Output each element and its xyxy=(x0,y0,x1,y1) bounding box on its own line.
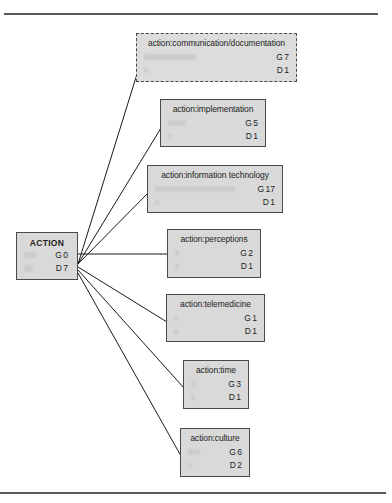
d-key: D xyxy=(277,65,284,75)
node-d-row: D1 xyxy=(148,196,282,209)
g-value: 7 xyxy=(284,52,289,62)
node-d-row: D1 xyxy=(184,391,248,404)
g-key: G xyxy=(244,313,251,323)
redacted-chip xyxy=(175,250,179,256)
g-value: 6 xyxy=(237,447,242,457)
node-d-row: D1 xyxy=(137,64,296,77)
node-d-row: D1 xyxy=(161,130,265,143)
redacted-chip xyxy=(24,252,36,258)
node-g-row: G5 xyxy=(161,117,265,130)
d-key: D xyxy=(245,326,252,336)
redacted-chip xyxy=(188,463,192,468)
node-title: action:time xyxy=(184,361,248,376)
edge-root-to-telemedicine xyxy=(78,267,167,322)
g-key: G xyxy=(55,250,62,260)
node-title: action:information technology xyxy=(148,166,282,181)
node-d-row: D1 xyxy=(168,260,260,273)
node-action-root[interactable]: ACTION G0 D7 xyxy=(16,232,78,280)
g-key: G xyxy=(228,379,235,389)
redacted-chip xyxy=(144,54,196,60)
redacted-chip xyxy=(155,200,159,205)
node-g-row: G7 xyxy=(137,51,296,64)
d-key: D xyxy=(263,197,270,207)
edge-root-to-information-technology xyxy=(78,193,148,264)
node-g-row: G3 xyxy=(184,378,248,391)
d-value: 1 xyxy=(248,261,253,271)
d-value: 1 xyxy=(252,326,257,336)
g-key: G xyxy=(245,118,252,128)
node-g-row: G6 xyxy=(181,446,249,459)
g-key: G xyxy=(257,184,264,194)
node-title: action:perceptions xyxy=(168,230,260,245)
d-value: 1 xyxy=(236,392,241,402)
redacted-chip xyxy=(155,186,235,192)
g-key: G xyxy=(240,248,247,258)
redacted-chip xyxy=(175,264,179,269)
node-title: action:culture xyxy=(181,429,249,444)
d-key: D xyxy=(230,460,237,470)
node-g-row: G0 xyxy=(17,249,77,262)
redacted-chip xyxy=(168,134,172,139)
redacted-chip xyxy=(24,265,33,272)
d-value: 1 xyxy=(253,131,258,141)
node-action-perceptions[interactable]: action:perceptions G2 D1 xyxy=(167,229,261,278)
d-value: 7 xyxy=(63,263,68,273)
node-action-information-technology[interactable]: action:information technology G17 D1 xyxy=(147,165,283,213)
node-action-time[interactable]: action:time G3 D1 xyxy=(183,360,249,409)
g-value: 2 xyxy=(248,248,253,258)
node-title: action:communication/documentation xyxy=(137,34,296,49)
redacted-chip xyxy=(188,449,200,455)
g-value: 3 xyxy=(236,379,241,389)
d-key: D xyxy=(241,261,248,271)
node-d-row: D7 xyxy=(17,262,77,275)
node-g-row: G1 xyxy=(167,312,264,325)
node-title: action:telemedicine xyxy=(167,295,264,310)
node-g-row: G2 xyxy=(168,247,260,260)
node-action-communication-documentation[interactable]: action:communication/documentation G7 D1 xyxy=(136,33,297,82)
g-value: 17 xyxy=(266,184,275,194)
d-value: 2 xyxy=(237,460,242,470)
redacted-chip xyxy=(144,68,148,73)
g-value: 1 xyxy=(252,313,257,323)
d-key: D xyxy=(229,392,236,402)
d-key: D xyxy=(246,131,253,141)
redacted-chip xyxy=(174,315,178,321)
edge-root-to-communication-documentation xyxy=(78,74,137,264)
node-action-implementation[interactable]: action:implementation G5 D1 xyxy=(160,99,266,147)
g-key: G xyxy=(276,52,283,62)
d-value: 1 xyxy=(284,65,289,75)
redacted-chip xyxy=(168,120,186,126)
d-value: 1 xyxy=(270,197,275,207)
g-value: 0 xyxy=(63,250,68,260)
redacted-chip xyxy=(174,329,178,334)
node-action-telemedicine[interactable]: action:telemedicine G1 D1 xyxy=(166,294,265,342)
diagram-page: ACTION G0 D7 action:communication/docume… xyxy=(0,0,392,503)
g-value: 5 xyxy=(253,118,258,128)
g-key: G xyxy=(229,447,236,457)
node-title: ACTION xyxy=(17,233,77,249)
node-d-row: D2 xyxy=(181,459,249,472)
d-key: D xyxy=(56,263,63,273)
node-d-row: D1 xyxy=(167,325,264,338)
redacted-chip xyxy=(191,395,195,400)
node-action-culture[interactable]: action:culture G6 D2 xyxy=(180,428,250,477)
redacted-chip xyxy=(191,381,196,387)
node-title: action:implementation xyxy=(161,100,265,115)
node-g-row: G17 xyxy=(148,183,282,196)
